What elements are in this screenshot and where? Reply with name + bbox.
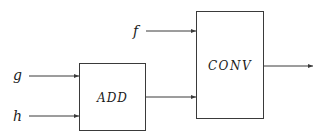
conv-block-label: CONV	[208, 59, 252, 73]
input-label-g: g	[13, 67, 22, 83]
block-diagram: g h f ADD CONV	[0, 0, 329, 139]
add-block: ADD	[80, 64, 146, 131]
input-label-h: h	[13, 108, 22, 124]
add-block-label: ADD	[96, 91, 128, 105]
input-label-f: f	[132, 23, 141, 39]
conv-block: CONV	[197, 12, 264, 119]
